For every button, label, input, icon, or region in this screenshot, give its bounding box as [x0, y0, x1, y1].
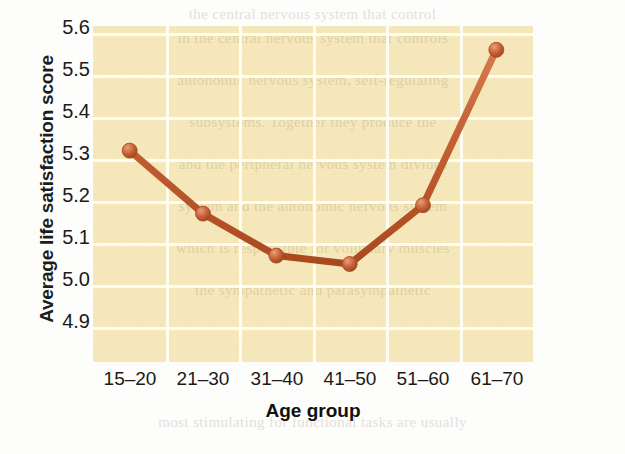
y-tick-label: 5.0	[46, 268, 90, 291]
data-point-marker	[416, 198, 431, 213]
x-axis-tick-labels: 15–20 21–30 31–40 41–50 51–60 61–70	[93, 368, 533, 398]
line-chart-svg	[93, 26, 533, 362]
x-axis-title: Age group	[93, 400, 533, 422]
data-point-marker	[122, 143, 137, 158]
y-tick-label: 5.3	[46, 142, 90, 165]
data-point-marker	[342, 257, 357, 272]
x-tick-label: 61–70	[449, 368, 545, 390]
plot-area: in the central nervous system that contr…	[93, 26, 533, 362]
y-tick-label: 5.2	[46, 184, 90, 207]
data-point-marker	[269, 248, 284, 263]
y-tick-label: 5.4	[46, 100, 90, 123]
y-axis-tick-labels: 5.6 5.5 5.4 5.3 5.2 5.1 5.0 4.9	[46, 20, 90, 365]
data-series-line	[122, 42, 504, 271]
y-tick-label: 5.5	[46, 58, 90, 81]
data-point-marker	[489, 42, 504, 57]
y-tick-label: 5.1	[46, 226, 90, 249]
bleed-text-line: the central nervous system that control	[0, 6, 625, 23]
y-tick-label: 4.9	[46, 310, 90, 333]
data-point-marker	[196, 206, 211, 221]
series-polyline	[130, 50, 497, 264]
y-tick-label: 5.6	[46, 16, 90, 39]
chart-figure: the central nervous system that control …	[0, 0, 625, 454]
